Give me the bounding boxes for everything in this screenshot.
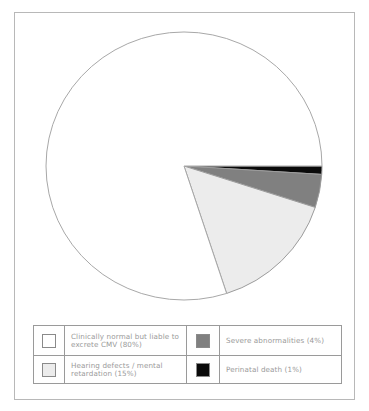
legend-row: Hearing defects / mental retardation (15…: [34, 355, 341, 384]
legend-row: Clinically normal but liable to excrete …: [34, 326, 341, 356]
pie-slices: [46, 32, 322, 300]
legend-label-severe-abnormalities: Severe abnormalities (4%): [226, 336, 338, 345]
swatch-clinically-normal: [42, 334, 56, 348]
swatch-perinatal-death: [196, 363, 210, 377]
legend-label-clinically-normal: Clinically normal but liable to excrete …: [71, 332, 183, 349]
legend-label-hearing-defects: Hearing defects / mental retardation (15…: [71, 361, 183, 378]
swatch-hearing-defects: [42, 363, 56, 377]
swatch-severe-abnormalities: [196, 334, 210, 348]
legend-label-perinatal-death: Perinatal death (1%): [226, 365, 338, 374]
legend: Clinically normal but liable to excrete …: [33, 325, 342, 384]
